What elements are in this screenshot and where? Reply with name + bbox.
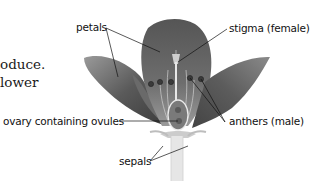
label-petals: petals xyxy=(76,21,107,33)
label-sepals: sepals xyxy=(119,155,151,167)
label-ovary: ovary containing ovules xyxy=(3,115,124,127)
label-stigma: stigma (female) xyxy=(229,22,310,34)
flower-diagram-figure: oduce. lower xyxy=(0,0,315,181)
label-anthers: anthers (male) xyxy=(229,115,304,127)
